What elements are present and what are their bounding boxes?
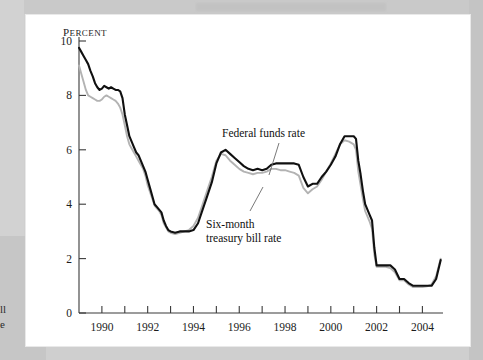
y-axis-tick-label: 0 — [66, 307, 72, 319]
axis-lines — [79, 37, 443, 313]
x-axis-tick-label: 2000 — [319, 321, 342, 333]
x-axis-tick-label: 2002 — [365, 321, 388, 333]
edge-text-fragment-2: e — [0, 318, 10, 330]
y-axis-ticks — [79, 41, 86, 313]
y-axis-unit-smallcaps: ERCENT — [70, 28, 108, 38]
y-axis-tick-label: 6 — [66, 144, 72, 156]
leader-line-six-month — [250, 187, 263, 211]
figure-container: PERCENT 0246810 199019921994199619982000… — [26, 15, 470, 346]
series-line-federal-funds-rate — [79, 48, 441, 286]
scan-artifact-smudge — [196, 3, 386, 11]
y-axis-tick-label: 8 — [66, 89, 72, 101]
interest-rate-line-chart: PERCENT 0246810 199019921994199619982000… — [26, 15, 470, 346]
x-axis-ticks — [102, 306, 423, 313]
annotation-federal-funds-rate: Federal funds rate — [222, 127, 305, 139]
x-axis-tick-label: 1990 — [90, 321, 113, 333]
x-axis-tick-label: 2004 — [411, 321, 434, 333]
x-axis-tick-label: 1994 — [182, 321, 205, 333]
x-axis-tick-label: 1992 — [136, 321, 159, 333]
printed-page: PERCENT 0246810 199019921994199619982000… — [26, 15, 470, 346]
x-axis-tick-label: 1998 — [274, 321, 297, 333]
annotation-six-month-line2: treasury bill rate — [206, 232, 281, 245]
x-axis-tick-labels: 19901992199419961998200020022004 — [90, 321, 434, 333]
scanned-page-background: ll e PERCENT 0246810 1990199219941996199… — [0, 0, 483, 360]
y-axis-tick-label: 2 — [66, 253, 72, 265]
page-gutter-left-upper — [0, 0, 24, 236]
edge-text-fragment-1: ll — [0, 303, 10, 315]
y-axis-tick-labels: 0246810 — [61, 35, 73, 319]
x-axis-tick-label: 1996 — [228, 321, 251, 333]
series-line-six-month-treasury-bill-rate — [79, 65, 441, 287]
page-gutter-right — [469, 0, 483, 360]
annotation-six-month-line1: Six-month — [206, 218, 255, 230]
y-axis-tick-label: 10 — [61, 35, 73, 47]
y-axis-tick-label: 4 — [66, 198, 72, 210]
